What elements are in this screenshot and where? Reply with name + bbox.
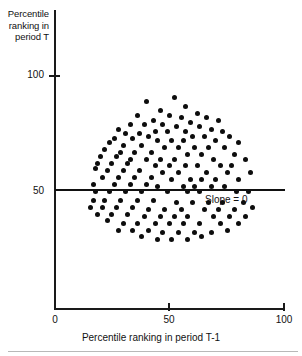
- scatter-point: [116, 175, 121, 180]
- scatter-point: [202, 207, 207, 212]
- scatter-point: [229, 163, 234, 168]
- scatter-point: [107, 140, 112, 145]
- scatter-point: [130, 228, 135, 233]
- scatter-point: [181, 138, 186, 143]
- scatter-point: [211, 157, 216, 162]
- scatter-point: [162, 207, 167, 212]
- slope-reference-line: [55, 189, 285, 191]
- scatter-point: [192, 230, 197, 235]
- y-axis-title-line-1: Percentile: [2, 8, 49, 20]
- scatter-point: [172, 157, 177, 162]
- scatter-point: [236, 221, 241, 226]
- scatter-point: [160, 170, 165, 175]
- scatter-point: [218, 221, 223, 226]
- scatter-point: [116, 127, 121, 132]
- scatter-point: [146, 134, 151, 139]
- y-axis-title-line-3: period T: [2, 31, 49, 43]
- scatter-point: [220, 129, 225, 134]
- slope-annotation-label: Slope = 0: [205, 194, 248, 206]
- scatter-point: [123, 131, 128, 136]
- scatter-point: [174, 200, 179, 205]
- scatter-point: [155, 237, 160, 242]
- scatter-point: [232, 207, 237, 212]
- scatter-point: [213, 138, 218, 143]
- scatter-point: [130, 205, 135, 210]
- scatter-point: [102, 147, 107, 152]
- scatter-point: [95, 212, 100, 217]
- scatter-point: [209, 230, 214, 235]
- scatter-point: [176, 145, 181, 150]
- scatter-point: [236, 177, 241, 182]
- scatter-point: [100, 205, 105, 210]
- scatter-point: [218, 163, 223, 168]
- scatter-point: [135, 198, 140, 203]
- scatter-point: [121, 143, 126, 148]
- scatter-point: [135, 113, 140, 118]
- scatter-point: [116, 228, 121, 233]
- y-axis-ticklabel-100: 100: [18, 69, 44, 80]
- scatter-point: [151, 118, 156, 123]
- scatter-point: [146, 207, 151, 212]
- scatter-point: [153, 221, 158, 226]
- scatter-point: [128, 182, 133, 187]
- scatter-point: [199, 234, 204, 239]
- scatter-point: [185, 152, 190, 157]
- scatter-point: [144, 157, 149, 162]
- scatter-point: [105, 218, 110, 223]
- scatter-point: [118, 198, 123, 203]
- scatter-point: [132, 150, 137, 155]
- scatter-point: [158, 214, 163, 219]
- scatter-point: [91, 198, 96, 203]
- scatter-point: [98, 154, 103, 159]
- scatter-plot-area: [54, 10, 285, 308]
- scatter-point: [149, 150, 154, 155]
- scatter-point: [142, 122, 147, 127]
- scatter-point: [216, 207, 221, 212]
- scatter-point: [167, 163, 172, 168]
- scatter-point: [197, 221, 202, 226]
- scatter-point: [204, 115, 209, 120]
- scatter-point: [209, 127, 214, 132]
- scatter-point: [185, 237, 190, 242]
- scatter-point: [158, 108, 163, 113]
- scatter-point: [121, 168, 126, 173]
- scatter-point: [132, 175, 137, 180]
- scatter-point: [121, 221, 126, 226]
- scatter-point: [225, 170, 230, 175]
- scatter-point: [88, 205, 93, 210]
- scatter-point: [188, 177, 193, 182]
- scatter-point: [211, 214, 216, 219]
- scatter-point: [109, 212, 114, 217]
- scatter-point: [243, 214, 248, 219]
- scatter-point: [181, 221, 186, 226]
- scatter-point: [112, 182, 117, 187]
- scatter-point: [188, 120, 193, 125]
- scatter-point: [190, 134, 195, 139]
- scatter-point: [172, 95, 177, 100]
- scatter-point: [142, 214, 147, 219]
- scatter-chart-figure: Percentile ranking in period T 100 50 0 …: [0, 0, 302, 356]
- scatter-point: [250, 205, 255, 210]
- scatter-point: [100, 175, 105, 180]
- scatter-point: [144, 182, 149, 187]
- y-axis-title: Percentile ranking in period T: [2, 8, 49, 43]
- scatter-point: [114, 154, 119, 159]
- scatter-point: [118, 150, 123, 155]
- scatter-point: [243, 157, 248, 162]
- scatter-point: [130, 136, 135, 141]
- scatter-point: [204, 170, 209, 175]
- scatter-point: [135, 221, 140, 226]
- scatter-point: [183, 163, 188, 168]
- scatter-point: [162, 145, 167, 150]
- scatter-point: [248, 170, 253, 175]
- scatter-point: [114, 205, 119, 210]
- scatter-point: [139, 143, 144, 148]
- scatter-point: [213, 177, 218, 182]
- scatter-point: [190, 200, 195, 205]
- scatter-point: [199, 177, 204, 182]
- scatter-point: [146, 228, 151, 233]
- scatter-point: [172, 214, 177, 219]
- scatter-point: [216, 118, 221, 123]
- scatter-point: [222, 145, 227, 150]
- x-axis-title: Percentile ranking in period T-1: [0, 332, 302, 344]
